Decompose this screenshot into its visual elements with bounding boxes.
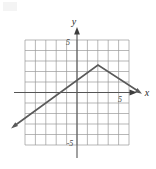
x-axis-label: x: [144, 87, 150, 98]
y-axis-tick-label-5: 5: [66, 38, 70, 47]
y-axis-tick-label-negative-5: -5: [67, 139, 74, 148]
y-axis-label: y: [71, 16, 77, 27]
graph-figure: 5 -5 5 y x: [0, 0, 156, 169]
coordinate-plane-svg: 5 -5 5 y x: [0, 0, 156, 169]
y-axis-arrow-icon: [74, 27, 80, 35]
x-axis-tick-label-5: 5: [118, 95, 122, 104]
